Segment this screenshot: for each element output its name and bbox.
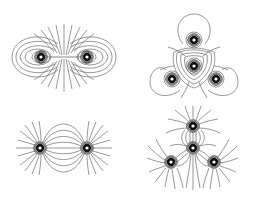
charge-icon bbox=[187, 142, 199, 154]
charge-icon bbox=[81, 142, 93, 154]
panel-dipole bbox=[16, 121, 112, 175]
field-lines bbox=[16, 121, 112, 175]
charge-icon bbox=[210, 73, 222, 85]
charge-icon bbox=[81, 51, 93, 63]
panel-four-charges-radial bbox=[147, 106, 238, 190]
charge-icon bbox=[165, 156, 177, 168]
charge-icon bbox=[35, 51, 47, 63]
field-lines bbox=[12, 24, 116, 92]
charge-icon bbox=[188, 34, 200, 46]
panel-like-charges bbox=[12, 24, 116, 92]
charge-icon bbox=[188, 60, 200, 72]
field-lines-figure bbox=[0, 0, 254, 205]
panel-four-charges-loops bbox=[150, 14, 238, 98]
charge-icon bbox=[187, 120, 199, 132]
charge-icon bbox=[208, 156, 220, 168]
charge-icon bbox=[166, 73, 178, 85]
field-lines bbox=[150, 14, 238, 98]
charge-icon bbox=[34, 142, 46, 154]
